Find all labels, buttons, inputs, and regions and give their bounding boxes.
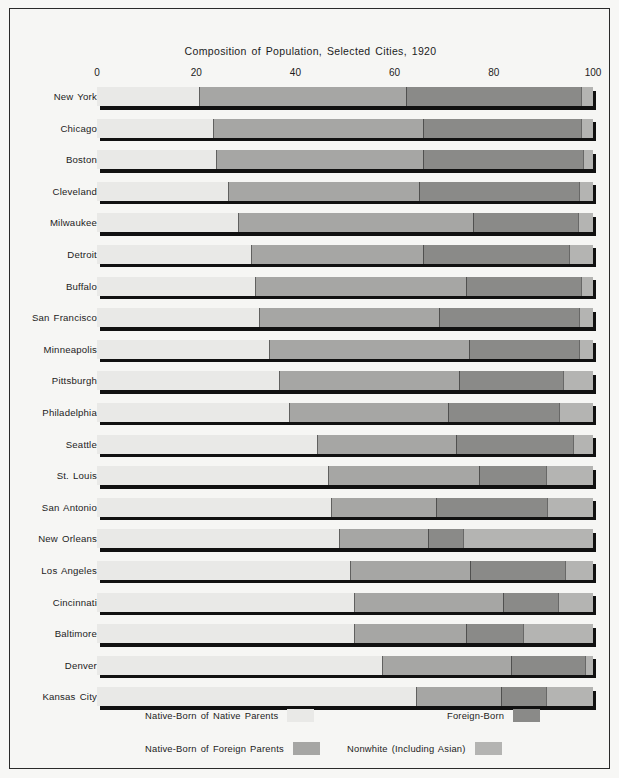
city-label: Milwaukee bbox=[50, 217, 97, 228]
stacked-bar bbox=[97, 245, 593, 264]
stacked-bar bbox=[97, 624, 593, 643]
bar-segment bbox=[579, 182, 593, 201]
bar-segment bbox=[97, 150, 216, 169]
bar-segment bbox=[354, 593, 503, 612]
bar-segment bbox=[578, 213, 593, 232]
stacked-bar bbox=[97, 119, 593, 138]
bar-segment bbox=[97, 466, 328, 485]
bar-row: Minneapolis bbox=[10, 338, 611, 370]
bar-segment bbox=[470, 561, 565, 580]
bar-segment bbox=[382, 656, 511, 675]
stacked-bar bbox=[97, 435, 593, 454]
bar-track bbox=[97, 561, 593, 580]
bar-track bbox=[97, 245, 593, 264]
bar-segment bbox=[456, 435, 573, 454]
bar-track bbox=[97, 435, 593, 454]
bar-row: Denver bbox=[10, 654, 611, 686]
stacked-bar bbox=[97, 340, 593, 359]
stacked-bar bbox=[97, 182, 593, 201]
city-label: San Antonio bbox=[42, 502, 97, 513]
bar-segment bbox=[466, 277, 581, 296]
stacked-bar bbox=[97, 593, 593, 612]
bar-segment bbox=[199, 87, 406, 106]
bar-segment bbox=[569, 245, 593, 264]
bar-track bbox=[97, 656, 593, 675]
bar-segment bbox=[97, 529, 339, 548]
bar-segment bbox=[259, 308, 440, 327]
bar-segment bbox=[479, 466, 546, 485]
bar-row: St. Louis bbox=[10, 464, 611, 496]
bar-segment bbox=[97, 561, 350, 580]
bar-segment bbox=[581, 277, 593, 296]
bar-segment bbox=[97, 624, 354, 643]
city-label: Buffalo bbox=[66, 281, 97, 292]
bar-row: Cleveland bbox=[10, 180, 611, 212]
bar-segment bbox=[97, 593, 354, 612]
bar-row: Cincinnati bbox=[10, 591, 611, 623]
bar-track bbox=[97, 308, 593, 327]
stacked-bar bbox=[97, 371, 593, 390]
bar-row: New Orleans bbox=[10, 527, 611, 559]
bar-segment bbox=[97, 340, 269, 359]
bar-track bbox=[97, 182, 593, 201]
legend-swatch bbox=[475, 742, 502, 755]
stacked-bar bbox=[97, 561, 593, 580]
bar-row: Boston bbox=[10, 148, 611, 180]
bar-track bbox=[97, 277, 593, 296]
bar-segment bbox=[546, 466, 593, 485]
legend-swatch bbox=[293, 742, 320, 755]
legend-swatch bbox=[287, 709, 314, 722]
legend-label: Native-Born of Foreign Parents bbox=[145, 743, 284, 754]
bar-segment bbox=[279, 371, 459, 390]
stacked-bar bbox=[97, 150, 593, 169]
bar-segment bbox=[559, 403, 593, 422]
city-label: Minneapolis bbox=[44, 344, 97, 355]
bar-segment bbox=[563, 371, 593, 390]
x-axis-tick-labels: 020406080100 bbox=[10, 67, 611, 83]
bar-segment bbox=[573, 435, 593, 454]
legend-label: Foreign-Born bbox=[447, 710, 504, 721]
city-label: Chicago bbox=[60, 123, 97, 134]
bar-track bbox=[97, 466, 593, 485]
bar-segment bbox=[269, 340, 469, 359]
bar-track bbox=[97, 403, 593, 422]
x-tick-40: 40 bbox=[290, 67, 301, 78]
city-label: Seattle bbox=[66, 439, 97, 450]
bar-track bbox=[97, 529, 593, 548]
stacked-bar bbox=[97, 87, 593, 106]
bar-segment bbox=[328, 466, 479, 485]
bar-track bbox=[97, 498, 593, 517]
bar-segment bbox=[579, 340, 593, 359]
stacked-bar bbox=[97, 277, 593, 296]
city-label: Philadelphia bbox=[42, 407, 97, 418]
bar-segment bbox=[436, 498, 547, 517]
bar-track bbox=[97, 593, 593, 612]
stacked-bar bbox=[97, 213, 593, 232]
bar-segment bbox=[97, 245, 251, 264]
bar-segment bbox=[216, 150, 423, 169]
bar-segment bbox=[473, 213, 578, 232]
bar-segment bbox=[419, 182, 579, 201]
bar-row: San Francisco bbox=[10, 306, 611, 338]
bar-segment bbox=[585, 656, 593, 675]
stacked-bar bbox=[97, 403, 593, 422]
legend-item: Foreign-Born bbox=[447, 709, 540, 722]
bar-segment bbox=[213, 119, 423, 138]
bar-row: Chicago bbox=[10, 117, 611, 149]
x-tick-60: 60 bbox=[389, 67, 400, 78]
city-label: Cincinnati bbox=[53, 597, 97, 608]
x-tick-20: 20 bbox=[191, 67, 202, 78]
bar-track bbox=[97, 87, 593, 106]
x-tick-80: 80 bbox=[488, 67, 499, 78]
bar-row: Baltimore bbox=[10, 622, 611, 654]
bar-segment bbox=[97, 435, 317, 454]
stacked-bar bbox=[97, 466, 593, 485]
bar-segment bbox=[339, 529, 428, 548]
bar-segment bbox=[289, 403, 448, 422]
bar-segment bbox=[558, 593, 593, 612]
bar-rows: New YorkChicagoBostonClevelandMilwaukeeD… bbox=[10, 85, 611, 717]
legend-swatch bbox=[513, 709, 540, 722]
legend-item: Native-Born of Native Parents bbox=[145, 709, 314, 722]
bar-row: San Antonio bbox=[10, 496, 611, 528]
city-label: New York bbox=[54, 91, 97, 102]
